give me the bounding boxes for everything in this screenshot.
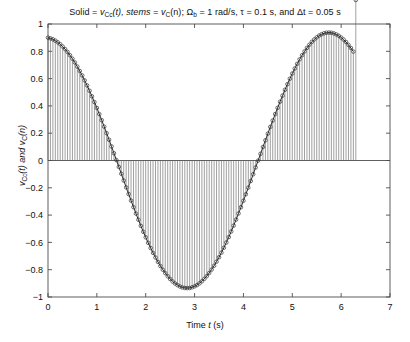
x-tick-label: 2 [143, 302, 148, 312]
y-tick-labels: −1−0.8−0.6−0.4−0.200.20.40.60.81 [25, 19, 43, 302]
x-tick-label: 3 [192, 302, 197, 312]
y-tick-label: 0 [38, 156, 43, 166]
y-tick-label: 0.2 [30, 128, 43, 138]
y-tick-label: 1 [38, 19, 43, 29]
x-tick-labels: 01234567 [45, 302, 392, 312]
x-tick-label: 1 [94, 302, 99, 312]
x-tick-label: 4 [241, 302, 246, 312]
y-tick-label: 0.6 [30, 74, 43, 84]
y-tick-label: 0.8 [30, 47, 43, 57]
x-tick-label: 5 [290, 302, 295, 312]
y-tick-label: −0.2 [25, 183, 43, 193]
y-tick-label: −1 [33, 292, 43, 302]
x-tick-label: 7 [387, 302, 392, 312]
x-tick-label: 6 [339, 302, 344, 312]
y-tick-label: −0.8 [25, 265, 43, 275]
y-tick-label: −0.6 [25, 238, 43, 248]
y-tick-label: −0.4 [25, 210, 43, 220]
x-tick-label: 0 [45, 302, 50, 312]
plot-area: 01234567 −1−0.8−0.6−0.4−0.200.20.40.60.8… [0, 0, 410, 342]
y-tick-label: 0.4 [30, 101, 43, 111]
figure-panel: Solid = vCc(t), stems = vC(n); Ωb = 1 ra… [0, 0, 410, 342]
